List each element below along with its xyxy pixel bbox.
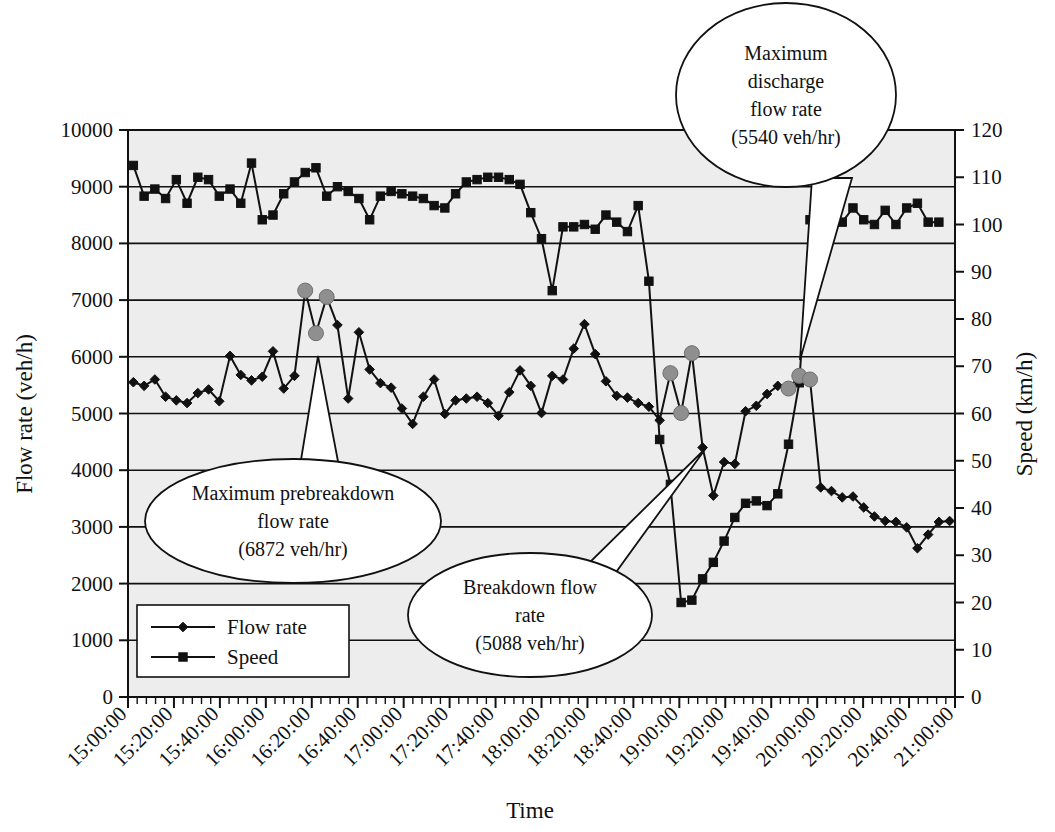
- data-point-speed: [473, 175, 481, 183]
- y-tick-label: 2000: [71, 572, 113, 596]
- legend-marker-square: [179, 653, 187, 661]
- y-tick-label: 4000: [71, 458, 113, 482]
- x-axis-title: Time: [506, 798, 554, 823]
- data-point-speed: [247, 159, 255, 167]
- data-point-speed: [881, 206, 889, 214]
- y-tick-label: 6000: [71, 345, 113, 369]
- data-point-speed: [849, 204, 857, 212]
- legend: Flow rateSpeed: [137, 605, 349, 677]
- data-point-speed: [494, 173, 502, 181]
- data-point-speed: [269, 211, 277, 219]
- data-point-speed: [441, 204, 449, 212]
- highlighted-data-point: [781, 381, 796, 396]
- data-point-speed: [548, 286, 556, 294]
- data-point-speed: [312, 164, 320, 172]
- highlighted-data-point: [663, 366, 678, 381]
- data-point-speed: [698, 575, 706, 583]
- data-point-speed: [419, 194, 427, 202]
- data-point-speed: [376, 192, 384, 200]
- data-point-speed: [344, 187, 352, 195]
- data-point-speed: [183, 199, 191, 207]
- y-axis-tick-labels: 0100020003000400050006000700080009000100…: [61, 118, 114, 709]
- data-point-speed: [355, 194, 363, 202]
- data-point-speed: [290, 178, 298, 186]
- highlighted-data-point: [298, 283, 313, 298]
- y2-tick-label: 50: [971, 449, 992, 473]
- y-axis-title: Flow rate (veh/h): [12, 334, 37, 494]
- callout-line: flow rate: [257, 510, 329, 532]
- data-point-speed: [720, 537, 728, 545]
- data-point-speed: [516, 180, 524, 188]
- data-point-speed: [408, 192, 416, 200]
- data-point-speed: [623, 227, 631, 235]
- data-point-speed: [860, 216, 868, 224]
- y2-tick-label: 70: [971, 354, 992, 378]
- data-point-speed: [129, 161, 137, 169]
- data-point-speed: [645, 277, 653, 285]
- data-point-speed: [784, 440, 792, 448]
- data-point-speed: [591, 225, 599, 233]
- callout-line: flow rate: [750, 98, 822, 120]
- data-point-speed: [484, 173, 492, 181]
- data-point-speed: [151, 185, 159, 193]
- data-point-speed: [387, 187, 395, 195]
- y-tick-label: 10000: [61, 118, 114, 142]
- data-point-speed: [935, 218, 943, 226]
- callout-line: Maximum: [744, 42, 828, 64]
- y-tick-label: 7000: [71, 288, 113, 312]
- data-point-speed: [280, 190, 288, 198]
- data-point-speed: [398, 190, 406, 198]
- y2-tick-label: 20: [971, 591, 992, 615]
- data-point-speed: [709, 558, 717, 566]
- callout-line: (5540 veh/hr): [731, 126, 840, 149]
- data-point-speed: [301, 168, 309, 176]
- data-point-speed: [655, 435, 663, 443]
- y2-tick-label: 60: [971, 402, 992, 426]
- data-point-speed: [559, 223, 567, 231]
- y-tick-label: 1000: [71, 628, 113, 652]
- highlighted-data-point: [684, 346, 699, 361]
- y2-axis-tick-labels: 0102030405060708090100110120: [971, 118, 1003, 709]
- y2-tick-label: 120: [971, 118, 1003, 142]
- data-point-speed: [580, 220, 588, 228]
- data-point-speed: [430, 201, 438, 209]
- data-point-speed: [237, 199, 245, 207]
- data-point-speed: [902, 204, 910, 212]
- y2-tick-label: 80: [971, 307, 992, 331]
- y2-tick-label: 40: [971, 496, 992, 520]
- y2-tick-label: 110: [971, 165, 1002, 189]
- y-tick-label: 3000: [71, 515, 113, 539]
- data-point-speed: [258, 216, 266, 224]
- data-point-speed: [634, 201, 642, 209]
- legend-label: Flow rate: [227, 615, 307, 639]
- data-point-speed: [365, 216, 373, 224]
- callout-line: (5088 veh/hr): [475, 632, 584, 655]
- y2-tick-label: 30: [971, 543, 992, 567]
- data-point-speed: [172, 175, 180, 183]
- y-tick-label: 9000: [71, 175, 113, 199]
- highlighted-data-point: [803, 372, 818, 387]
- y2-tick-label: 0: [971, 685, 982, 709]
- data-point-speed: [602, 211, 610, 219]
- data-point-speed: [333, 183, 341, 191]
- data-point-speed: [215, 192, 223, 200]
- callout-line: rate: [515, 604, 545, 626]
- data-point-speed: [870, 220, 878, 228]
- data-point-speed: [924, 218, 932, 226]
- callout-line: discharge: [748, 70, 824, 93]
- data-point-speed: [226, 185, 234, 193]
- data-point-speed: [688, 596, 696, 604]
- y2-tick-label: 90: [971, 260, 992, 284]
- y-tick-label: 5000: [71, 402, 113, 426]
- highlighted-data-point: [308, 326, 323, 341]
- highlighted-data-point: [319, 289, 334, 304]
- data-point-speed: [752, 497, 760, 505]
- data-point-speed: [161, 194, 169, 202]
- data-point-speed: [612, 218, 620, 226]
- chart-svg: 0100020003000400050006000700080009000100…: [0, 0, 1055, 832]
- data-point-speed: [505, 175, 513, 183]
- data-point-speed: [537, 234, 545, 242]
- data-point-speed: [731, 513, 739, 521]
- y2-tick-label: 10: [971, 638, 992, 662]
- y-tick-label: 8000: [71, 231, 113, 255]
